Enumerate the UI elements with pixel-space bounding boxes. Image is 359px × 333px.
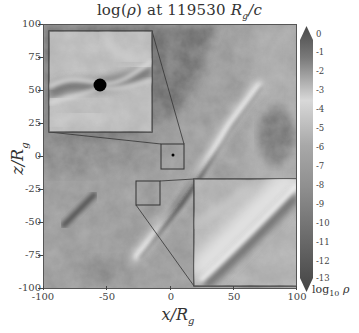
colorbar-tick: -9 — [316, 200, 324, 209]
x-tick-label: 100 — [287, 292, 306, 302]
x-tick-label: 50 — [228, 292, 241, 302]
x-tick-label: -100 — [32, 292, 54, 302]
colorbar-tick: -4 — [316, 105, 324, 114]
colorbar-tick: -11 — [316, 238, 330, 247]
x-tick-label: -50 — [99, 292, 115, 302]
y-tick-label: 50 — [28, 85, 41, 95]
colorbar-tick: -10 — [316, 219, 330, 228]
x-tick-mark — [170, 286, 171, 290]
colorbar-tick: -8 — [316, 181, 324, 190]
y-tick-label: 0 — [35, 151, 41, 161]
y-tick-label: 75 — [28, 52, 41, 62]
colorbar-label: log10 ρ — [312, 283, 349, 298]
colorbar-tick: -3 — [316, 86, 324, 95]
chart-title: log(ρ) at 119530 Rg/c — [0, 1, 359, 21]
y-axis-label: z/Rg — [8, 134, 29, 184]
y-tick-label: 25 — [28, 118, 41, 128]
x-tick-label: 0 — [168, 292, 174, 302]
x-tick-mark — [296, 286, 297, 290]
colorbar-tick: -13 — [316, 274, 330, 283]
x-tick-mark — [106, 286, 107, 290]
y-tick-label: -25 — [25, 184, 41, 194]
y-tick-label: -50 — [25, 217, 41, 227]
colorbar — [300, 26, 313, 292]
inset-center-zoom — [49, 31, 152, 132]
density-map-image — [44, 25, 297, 289]
y-tick-label: -75 — [25, 250, 41, 260]
colorbar-tick: 0 — [316, 30, 321, 39]
colorbar-tick: -6 — [316, 143, 324, 152]
density-map — [43, 24, 297, 289]
colorbar-tick: -5 — [316, 124, 324, 133]
colorbar-tick: -12 — [316, 257, 330, 266]
colorbar-tick: -7 — [316, 162, 324, 171]
x-axis-label: x/Rg — [148, 305, 208, 326]
colorbar-tick: -2 — [316, 67, 324, 76]
colorbar-tick: -1 — [316, 48, 324, 57]
inset-stream-zoom — [194, 175, 297, 287]
y-tick-label: 100 — [22, 19, 41, 29]
x-tick-mark — [43, 286, 44, 290]
x-tick-mark — [233, 286, 234, 290]
